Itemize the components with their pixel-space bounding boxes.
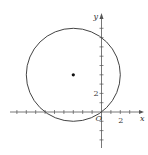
curves <box>26 28 120 121</box>
axes <box>10 13 144 148</box>
labels: y x O 2 2 <box>93 12 146 125</box>
center-point <box>72 73 75 76</box>
x-tick-label-2: 2 <box>118 116 123 125</box>
ticks <box>17 28 130 140</box>
y-tick-label-2: 2 <box>94 89 99 98</box>
y-axis-arrow-icon <box>100 13 104 19</box>
origin-label: O <box>96 114 103 123</box>
x-axis-label: x <box>140 114 145 123</box>
y-axis-label: y <box>93 12 99 21</box>
coordinate-plane: y x O 2 2 <box>0 0 148 155</box>
